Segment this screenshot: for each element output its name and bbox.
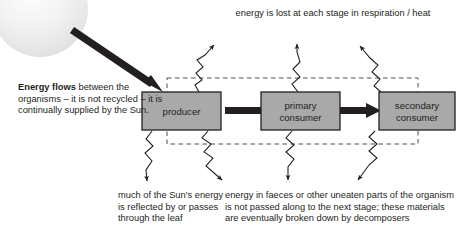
trophic-box-secondary-consumer-label-line1: secondary xyxy=(395,100,439,111)
caption-energy-flows: Energy flows between the organisms – it … xyxy=(18,82,168,117)
zigzag-arrow-icon-faeces-down-1 xyxy=(202,131,222,180)
zigzag-arrow-icon-primary-up xyxy=(292,44,300,92)
caption-sun-energy-reflected: much of the Sun's energy is reflected by… xyxy=(118,190,226,225)
trophic-box-secondary-consumer-label-line2: consumer xyxy=(396,112,439,123)
zigzag-arrow-icon-producer-up xyxy=(195,45,214,92)
trophic-box-secondary-consumer[interactable]: secondary consumer xyxy=(379,92,455,130)
zigzag-arrow-icon-producer-down xyxy=(145,131,153,181)
caption-energy-flows-lead: Energy flows xyxy=(18,82,76,92)
caption-faeces-decomposers: energy in faeces or other uneaten parts … xyxy=(225,190,457,225)
trophic-box-producer-label: producer xyxy=(163,106,202,117)
trophic-box-primary-consumer[interactable]: primary consumer xyxy=(261,92,340,130)
caption-energy-lost: energy is lost at each stage in respirat… xyxy=(216,8,450,20)
trophic-box-primary-consumer-label-line1: primary xyxy=(285,100,317,111)
zigzag-arrow-icon-faeces-down-3 xyxy=(358,131,377,180)
trophic-box-primary-consumer-label-line2: consumer xyxy=(279,112,322,123)
energy-flow-diagram: producer primary consumer secondary cons… xyxy=(0,0,459,245)
zigzag-arrow-icon-secondary-up xyxy=(360,46,381,92)
zigzag-arrow-icon-faeces-down-2 xyxy=(286,131,294,180)
